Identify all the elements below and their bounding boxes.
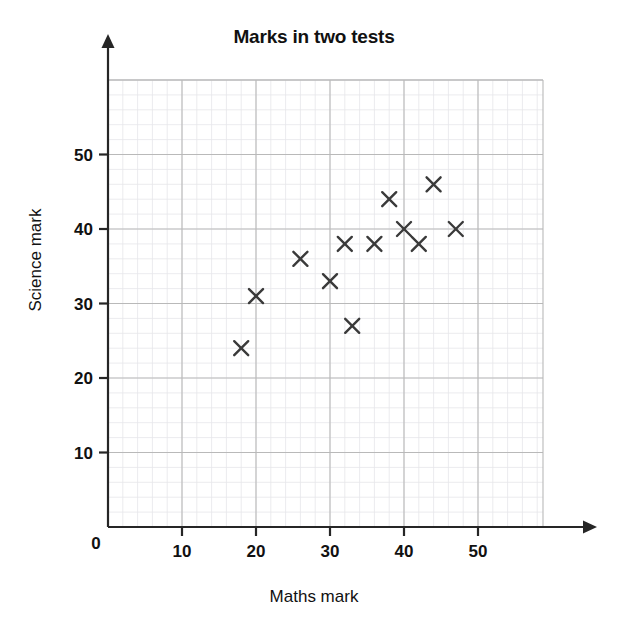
svg-text:40: 40	[395, 542, 414, 561]
chart-canvas: Marks in two tests 102030405010203040500…	[0, 0, 628, 633]
svg-text:10: 10	[173, 542, 192, 561]
axis-ticks	[99, 155, 478, 537]
svg-text:30: 30	[321, 542, 340, 561]
x-axis-title: Maths mark	[0, 587, 628, 607]
scatter-plot-svg: 102030405010203040500	[0, 0, 628, 633]
svg-text:50: 50	[469, 542, 488, 561]
axis-tick-labels: 102030405010203040500	[74, 146, 487, 562]
data-point-marker	[345, 319, 359, 333]
svg-text:0: 0	[91, 534, 100, 553]
major-gridlines	[108, 80, 543, 527]
svg-text:30: 30	[74, 295, 93, 314]
y-axis-title: Science mark	[26, 180, 46, 340]
data-point-markers	[234, 177, 463, 355]
svg-text:20: 20	[74, 369, 93, 388]
svg-text:10: 10	[74, 444, 93, 463]
svg-text:40: 40	[74, 220, 93, 239]
svg-text:50: 50	[74, 146, 93, 165]
svg-text:20: 20	[247, 542, 266, 561]
